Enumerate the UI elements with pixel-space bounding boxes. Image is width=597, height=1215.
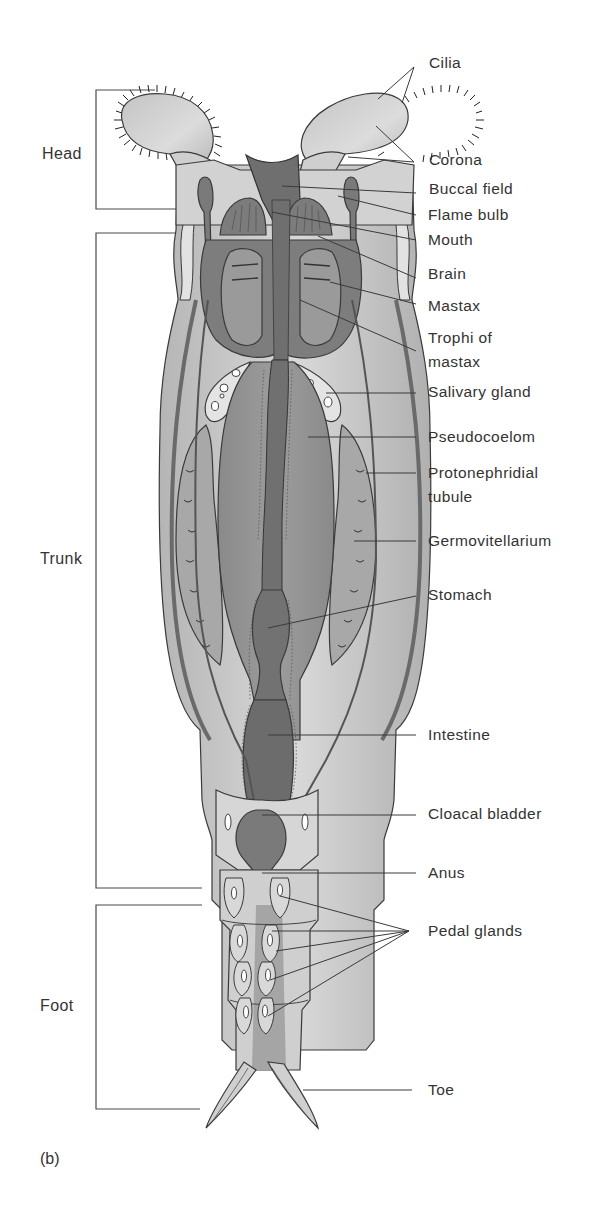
label-pedal-glands: Pedal glands [428, 922, 522, 940]
label-mouth: Mouth [428, 231, 473, 249]
label-protonephridial-line2: tubule [428, 488, 473, 506]
label-toe: Toe [428, 1081, 454, 1099]
label-intestine: Intestine [428, 726, 490, 744]
label-corona: Corona [429, 151, 482, 169]
label-germovitellarium: Germovitellarium [428, 532, 552, 550]
foot-bracket [96, 905, 202, 1109]
label-anus: Anus [428, 864, 465, 882]
rotifer-diagram: Head Trunk Foot Cilia Corona Buccal fiel… [0, 0, 597, 1215]
label-brain: Brain [428, 265, 466, 283]
trophi-left [221, 249, 262, 346]
label-mastax: Mastax [428, 297, 480, 315]
label-trophi-line2: mastax [428, 353, 480, 371]
label-flame-bulb: Flame bulb [428, 206, 509, 224]
label-protonephridial-line1: Protonephridial [428, 464, 538, 482]
region-label-head: Head [42, 145, 82, 163]
label-stomach: Stomach [428, 586, 492, 604]
label-trophi-line1: Trophi of [428, 329, 492, 347]
trophi-right [300, 249, 341, 346]
panel-label: (b) [40, 1150, 60, 1168]
label-buccal-field: Buccal field [429, 180, 513, 198]
toe-left [206, 1062, 256, 1128]
region-label-foot: Foot [40, 997, 74, 1015]
region-label-trunk: Trunk [40, 550, 82, 568]
label-cloacal-bladder: Cloacal bladder [428, 805, 542, 823]
label-pseudocoelom: Pseudocoelom [428, 428, 535, 446]
label-cilia: Cilia [429, 54, 461, 72]
toe-right [268, 1062, 318, 1128]
label-salivary-gland: Salivary gland [428, 383, 531, 401]
